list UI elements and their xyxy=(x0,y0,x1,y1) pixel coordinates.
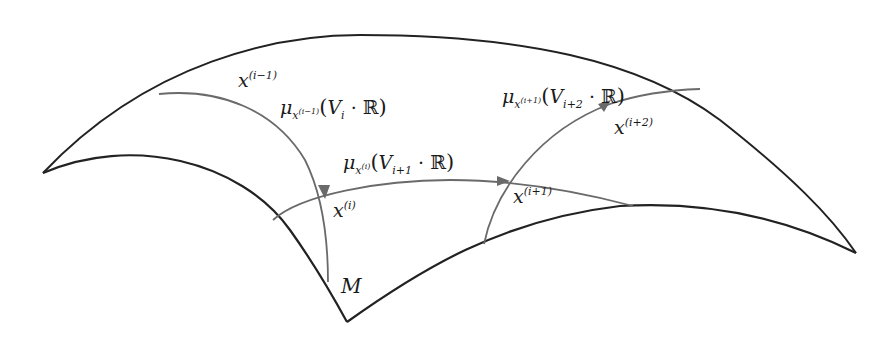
point-label-x-i-minus-1: x(i−1) xyxy=(238,70,277,90)
point-label-x-i: x(i) xyxy=(333,200,356,220)
mu-symbol: μ xyxy=(280,96,292,118)
v-sub: i+1 xyxy=(392,164,412,177)
point-base: x xyxy=(238,69,249,91)
point-label-x-i-plus-2: x(i+2) xyxy=(614,117,653,137)
v-symbol: V xyxy=(549,85,563,107)
curve-label-mu-3: μx(i+1)(Vi+2 · ℝ) xyxy=(502,86,625,110)
sub-sup: (i+1) xyxy=(521,96,542,105)
paren-open: ( xyxy=(370,150,378,174)
v-sub: i+2 xyxy=(563,98,583,111)
manifold-diagram: x(i−1) μx(i−1)(Vi · ℝ) μx(i)(Vi+1 · ℝ) x… xyxy=(0,0,894,343)
v-sub: i xyxy=(341,109,345,122)
reals-symbol: ℝ xyxy=(601,85,617,107)
surface-left-bottom-edge xyxy=(43,155,347,322)
sub-sup: (i−1) xyxy=(299,107,320,116)
reals-symbol: ℝ xyxy=(430,151,446,173)
paren-close: ) xyxy=(446,150,454,174)
point-label-x-i-plus-1: x(i+1) xyxy=(513,186,552,206)
surface-top-edge xyxy=(43,35,856,253)
point-base: x xyxy=(614,116,625,138)
point-base: x xyxy=(513,185,524,207)
surface-right-bottom-edge xyxy=(347,205,856,322)
point-superscript: (i+2) xyxy=(625,116,653,129)
curve-label-mu-1: μx(i−1)(Vi · ℝ) xyxy=(280,97,387,121)
v-symbol: V xyxy=(379,151,393,173)
mu-symbol: μ xyxy=(343,151,355,173)
dot: · xyxy=(418,151,424,173)
reals-symbol: ℝ xyxy=(363,96,379,118)
dot: · xyxy=(351,96,357,118)
paren-close: ) xyxy=(617,84,625,108)
dot: · xyxy=(589,85,595,107)
geodesic-curve-3 xyxy=(484,89,700,244)
curve-label-mu-2: μx(i)(Vi+1 · ℝ) xyxy=(343,152,454,176)
v-symbol: V xyxy=(327,96,341,118)
point-superscript: (i+1) xyxy=(524,185,552,198)
paren-close: ) xyxy=(379,95,387,119)
mu-symbol: μ xyxy=(502,85,514,107)
point-superscript: (i−1) xyxy=(249,69,277,82)
point-superscript: (i) xyxy=(344,199,356,212)
manifold-label: M xyxy=(341,276,361,296)
point-base: x xyxy=(333,199,344,221)
